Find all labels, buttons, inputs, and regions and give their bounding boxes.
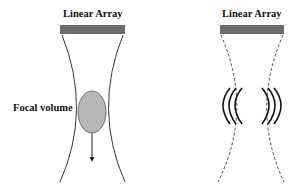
focal-volume-ellipse bbox=[78, 91, 106, 133]
right-beam-boundary-left bbox=[218, 35, 237, 182]
left-linear-array-bar bbox=[60, 25, 125, 34]
left-beam-boundary-right bbox=[108, 35, 125, 182]
arrow-head-icon bbox=[90, 157, 95, 162]
right-linear-array-bar bbox=[220, 25, 284, 34]
left-beam-boundary-left bbox=[60, 35, 77, 182]
wave-arc-right-1 bbox=[262, 88, 269, 124]
diagram-canvas bbox=[0, 0, 299, 192]
